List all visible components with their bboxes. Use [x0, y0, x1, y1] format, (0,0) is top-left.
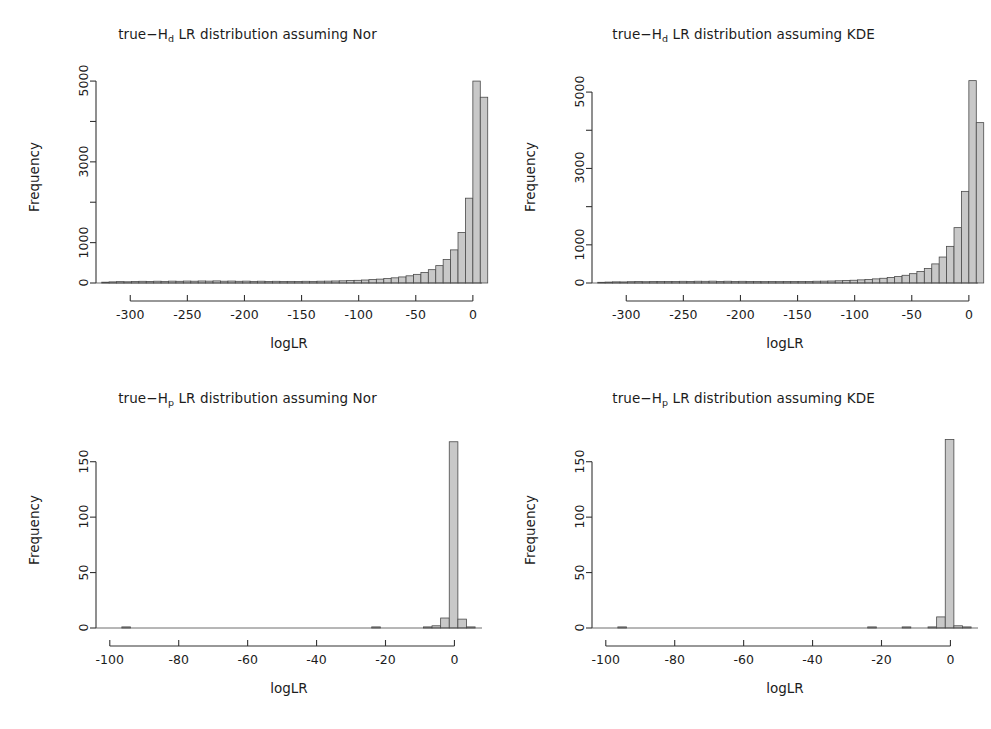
y-axis-label: Frequency — [26, 107, 42, 247]
histogram-bar — [441, 618, 450, 628]
histogram-bar — [413, 274, 420, 283]
histogram-bar — [850, 280, 857, 283]
histogram-bar — [937, 617, 946, 628]
histogram-bars — [102, 81, 488, 283]
plot-canvas-bottom-left — [0, 364, 495, 728]
x-tick-label: -200 — [710, 307, 770, 322]
x-tick-label: -200 — [214, 307, 274, 322]
y-tick-label: 3000 — [76, 133, 91, 189]
y-tick-label: 5000 — [76, 53, 91, 109]
histogram-bar — [939, 257, 946, 283]
histogram-bars — [122, 442, 475, 628]
y-tick-label: 3000 — [572, 140, 587, 196]
histogram-bars — [618, 440, 971, 628]
histogram-bar — [902, 275, 909, 283]
histogram-bar — [451, 250, 458, 283]
histogram-bar — [376, 279, 383, 283]
panel-bottom-left: true−Hp LR distribution assuming Nor0501… — [0, 364, 495, 728]
histogram-bar — [909, 274, 916, 283]
x-tick-label: 0 — [920, 652, 980, 667]
histogram-bar — [421, 272, 428, 283]
x-axis-label: logLR — [592, 680, 978, 696]
x-tick-label: -50 — [882, 307, 942, 322]
histogram-bar — [865, 279, 872, 283]
x-tick-label: -20 — [356, 652, 416, 667]
histogram-bar — [384, 279, 391, 283]
histogram-bar — [924, 268, 931, 283]
x-tick-label: -40 — [783, 652, 843, 667]
histogram-bar — [887, 278, 894, 284]
histogram-bar — [449, 442, 458, 628]
histogram-bar — [473, 81, 480, 283]
histogram-bar — [961, 191, 968, 283]
x-tick-label: -100 — [825, 307, 885, 322]
x-tick-label: -100 — [329, 307, 389, 322]
y-axis-label: Frequency — [522, 107, 538, 247]
panel-bottom-right: true−Hp LR distribution assuming KDE0501… — [496, 364, 991, 728]
y-tick-label: 100 — [572, 489, 587, 545]
histogram-bar — [976, 123, 983, 283]
x-tick-label: -100 — [576, 652, 636, 667]
y-axis-label: Frequency — [26, 460, 42, 600]
x-tick-label: 0 — [424, 652, 484, 667]
histogram-bar — [932, 264, 939, 283]
histogram-bar — [880, 278, 887, 283]
histogram-bars — [598, 81, 984, 283]
x-tick-label: -20 — [852, 652, 912, 667]
x-axis-label: logLR — [592, 335, 978, 351]
x-tick-label: -250 — [157, 307, 217, 322]
histogram-bar — [480, 97, 487, 283]
histogram-bar — [917, 272, 924, 283]
y-tick-label: 1000 — [572, 216, 587, 272]
panel-top-right: true−Hd LR distribution assuming KDE0100… — [496, 0, 991, 364]
y-tick-label: 50 — [76, 544, 91, 600]
x-tick-label: -250 — [653, 307, 713, 322]
x-tick-label: -300 — [596, 307, 656, 322]
x-tick-label: 0 — [443, 307, 503, 322]
histogram-bar — [858, 280, 865, 283]
histogram-bar — [399, 277, 406, 283]
y-tick-label: 0 — [572, 600, 587, 656]
x-tick-label: -300 — [100, 307, 160, 322]
y-tick-label: 150 — [76, 433, 91, 489]
histogram-bar — [895, 277, 902, 283]
x-axis-label: logLR — [96, 680, 482, 696]
histogram-bar — [872, 279, 879, 283]
x-tick-label: -60 — [714, 652, 774, 667]
y-tick-label: 1000 — [76, 214, 91, 270]
x-tick-label: -50 — [386, 307, 446, 322]
histogram-figure: true−Hd LR distribution assuming Nor0100… — [0, 0, 991, 729]
plot-canvas-bottom-right — [496, 364, 991, 728]
histogram-bar — [954, 228, 961, 283]
y-tick-label: 50 — [572, 544, 587, 600]
histogram-bar — [443, 260, 450, 283]
histogram-bar — [428, 270, 435, 283]
histogram-bar — [945, 440, 954, 628]
histogram-bar — [436, 266, 443, 283]
x-tick-label: -80 — [149, 652, 209, 667]
histogram-bar — [406, 276, 413, 283]
histogram-bar — [947, 246, 954, 283]
x-tick-label: -100 — [80, 652, 140, 667]
y-tick-label: 5000 — [572, 64, 587, 120]
x-axis-label: logLR — [96, 335, 482, 351]
histogram-bar — [369, 280, 376, 283]
y-tick-label: 150 — [572, 433, 587, 489]
x-tick-label: -150 — [272, 307, 332, 322]
x-tick-label: -60 — [218, 652, 278, 667]
histogram-bar — [391, 278, 398, 283]
histogram-bar — [458, 619, 467, 628]
x-tick-label: -150 — [768, 307, 828, 322]
histogram-bar — [362, 280, 369, 283]
histogram-bar — [458, 233, 465, 283]
panel-top-left: true−Hd LR distribution assuming Nor0100… — [0, 0, 495, 364]
y-tick-label: 100 — [76, 489, 91, 545]
histogram-bar — [465, 198, 472, 283]
y-axis-label: Frequency — [522, 460, 538, 600]
x-tick-label: 0 — [939, 307, 991, 322]
histogram-bar — [354, 280, 361, 283]
histogram-bar — [969, 81, 976, 283]
x-tick-label: -40 — [287, 652, 347, 667]
x-tick-label: -80 — [645, 652, 705, 667]
y-tick-label: 0 — [76, 600, 91, 656]
